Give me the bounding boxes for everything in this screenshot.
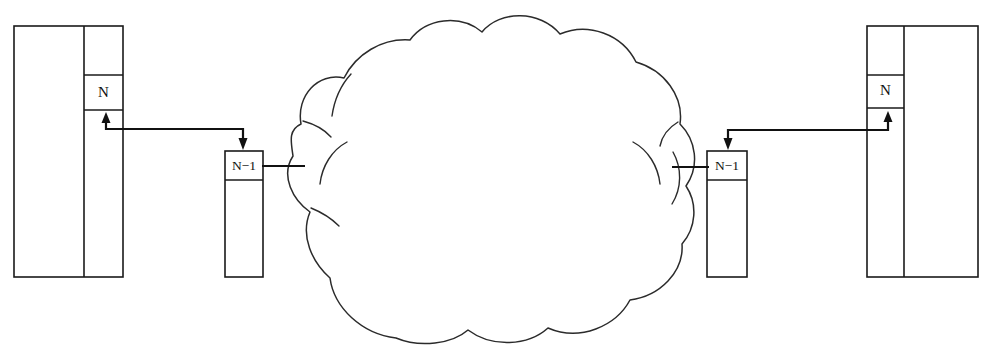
left-router-layer-label: N−1 <box>232 158 256 173</box>
left-host-layer-n-label: N <box>98 84 109 100</box>
network-diagram-svg: N N−1 N−1 N <box>0 0 989 349</box>
right-peer-link-path <box>728 119 888 141</box>
left-peer-link-path <box>106 120 243 141</box>
right-router-stack[interactable]: N−1 <box>707 151 747 277</box>
left-peer-link-arrowhead-down <box>239 138 248 150</box>
right-host-layer-n-label: N <box>880 82 891 98</box>
right-host-outline <box>867 26 978 277</box>
left-router-stack[interactable]: N−1 <box>225 151 263 277</box>
diagram-canvas: N N−1 N−1 N <box>0 0 989 349</box>
right-router-layer-label: N−1 <box>715 158 739 173</box>
left-host-outline <box>14 26 123 277</box>
right-host-stack[interactable]: N <box>867 26 978 277</box>
right-peer-link-arrowhead-down <box>724 138 733 150</box>
left-host-stack[interactable]: N <box>14 26 123 277</box>
network-cloud[interactable] <box>288 16 695 344</box>
cloud-outline <box>288 16 695 344</box>
